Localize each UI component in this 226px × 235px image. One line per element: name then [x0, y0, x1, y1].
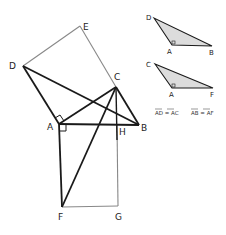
- segment-ch: [116, 87, 117, 140]
- label-h: H: [119, 127, 126, 137]
- inset-bottom-label-c: C: [146, 61, 151, 69]
- geometry-diagram: D E C A B H F G D A B C A F AD = AC AB =…: [0, 0, 226, 235]
- inset-bottom-label-a: A: [169, 91, 174, 99]
- segment-ec: [80, 26, 116, 87]
- label-a: A: [47, 122, 54, 132]
- segment-de: [23, 26, 80, 66]
- square-adec: [23, 26, 116, 124]
- equation-ab-af: AB = AF: [191, 110, 214, 116]
- label-g: G: [115, 212, 122, 222]
- main-labels: D E C A B H F G: [9, 22, 147, 222]
- inset-triangle-dab: D A B: [146, 14, 214, 57]
- label-f: F: [58, 212, 63, 222]
- equations: AD = AC AB = AF: [155, 109, 214, 116]
- label-e: E: [83, 22, 89, 32]
- label-c: C: [114, 72, 120, 82]
- inset-bottom-label-f: F: [210, 91, 214, 99]
- inset-top-label-b: B: [209, 49, 214, 57]
- inset-top-label-a: A: [167, 48, 172, 56]
- inset-top-label-d: D: [146, 14, 151, 22]
- label-b: B: [141, 123, 147, 133]
- equation-ad-ac: AD = AC: [155, 110, 179, 116]
- segment-af: [59, 124, 62, 207]
- segment-fg: [62, 206, 118, 207]
- inset-triangle-caf: C A F: [146, 61, 214, 99]
- label-d: D: [9, 61, 16, 71]
